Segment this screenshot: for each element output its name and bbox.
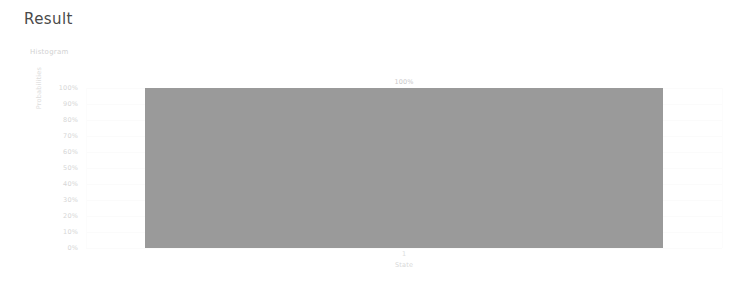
histogram-chart: Histogram Probabilities 100%90%80%70%60%… (0, 34, 737, 289)
chart-caption: Histogram (30, 48, 69, 56)
x-axis-title: State (86, 261, 722, 269)
vertical-gridline (722, 88, 723, 248)
x-axis-tick-label: 1 (402, 250, 406, 258)
y-axis-tick-label: 40% (63, 180, 78, 188)
vertical-gridline (86, 88, 87, 248)
histogram-bar[interactable] (145, 88, 663, 248)
y-axis-tick-label: 10% (63, 228, 78, 236)
y-axis-tick-label: 0% (67, 244, 78, 252)
y-axis-tick-label: 60% (63, 148, 78, 156)
y-axis-tick-label: 30% (63, 196, 78, 204)
y-axis-tick-label: 20% (63, 212, 78, 220)
y-axis-title: Probabilities (35, 43, 43, 133)
y-axis-tick-label: 70% (63, 132, 78, 140)
gridline (86, 248, 722, 249)
y-axis-tick-labels: 100%90%80%70%60%50%40%30%20%10%0% (46, 88, 78, 248)
plot-area: 100% (86, 88, 722, 248)
y-axis-tick-label: 80% (63, 116, 78, 124)
y-axis-tick-label: 50% (63, 164, 78, 172)
bar-value-label: 100% (394, 78, 413, 86)
page-title: Result (24, 10, 73, 28)
y-axis-tick-label: 100% (59, 84, 78, 92)
y-axis-tick-label: 90% (63, 100, 78, 108)
